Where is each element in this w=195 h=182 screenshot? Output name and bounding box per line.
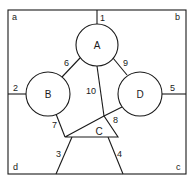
edge-10 [97, 66, 104, 116]
network-diagram: 12345678910ABDCabcd [0, 0, 195, 182]
edge-label-5: 5 [170, 83, 175, 93]
corner-label-a: a [12, 12, 17, 22]
corner-label-c: c [176, 162, 181, 172]
node-label-D: D [136, 89, 143, 100]
edge-label-10: 10 [86, 86, 96, 96]
edge-label-4: 4 [117, 149, 122, 159]
node-label-C: C [95, 126, 102, 137]
edge-label-9: 9 [123, 58, 128, 68]
edge-label-8: 8 [113, 115, 118, 125]
node-label-A: A [94, 40, 101, 51]
edge-label-3: 3 [56, 149, 61, 159]
node-label-B: B [45, 89, 52, 100]
node-C [65, 116, 118, 137]
edge-label-2: 2 [13, 83, 18, 93]
edge-label-6: 6 [64, 58, 69, 68]
corner-label-b: b [175, 12, 180, 22]
edge-label-7: 7 [52, 120, 57, 130]
edge-7 [56, 114, 65, 137]
corner-label-d: d [13, 162, 18, 172]
edge-label-1: 1 [100, 13, 105, 23]
